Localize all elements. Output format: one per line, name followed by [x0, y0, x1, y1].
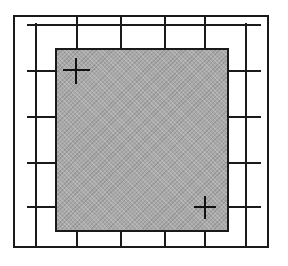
- grid-vline-1: [35, 23, 37, 248]
- grid-hline-1: [27, 24, 261, 26]
- diagram-canvas: [0, 0, 288, 266]
- grid-vline-6: [245, 23, 247, 248]
- crosshair-icon: [194, 196, 216, 219]
- crosshair-icon: [63, 58, 90, 84]
